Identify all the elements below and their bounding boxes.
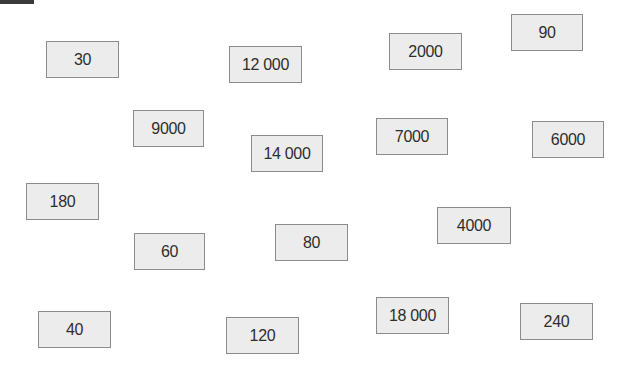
corner-marker xyxy=(0,0,34,4)
number-card: 240 xyxy=(520,303,593,340)
number-card: 18 000 xyxy=(376,297,449,334)
number-card: 80 xyxy=(275,224,348,261)
number-card: 6000 xyxy=(532,121,604,158)
number-card: 40 xyxy=(38,311,111,348)
number-card: 14 000 xyxy=(251,135,323,172)
number-card: 90 xyxy=(511,14,583,51)
number-card: 7000 xyxy=(376,118,448,155)
number-card: 180 xyxy=(26,183,99,220)
number-card: 12 000 xyxy=(229,46,302,83)
number-card: 60 xyxy=(134,233,205,270)
number-card: 2000 xyxy=(389,33,462,70)
number-card: 4000 xyxy=(437,207,511,244)
number-card: 30 xyxy=(46,41,119,78)
number-card: 9000 xyxy=(133,110,204,147)
number-card: 120 xyxy=(226,317,299,354)
